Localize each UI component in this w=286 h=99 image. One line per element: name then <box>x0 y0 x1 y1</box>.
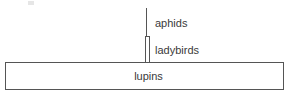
aphids-bar <box>146 8 147 36</box>
lupins-bar: lupins <box>5 62 284 90</box>
lupins-label: lupins <box>134 70 163 82</box>
aphids-label: aphids <box>155 17 187 30</box>
ladybirds-bar <box>145 36 150 63</box>
corner-mark <box>28 1 34 5</box>
ladybirds-label: ladybirds <box>155 44 199 57</box>
pyramid-of-numbers-diagram: aphids ladybirds lupins <box>0 0 286 99</box>
